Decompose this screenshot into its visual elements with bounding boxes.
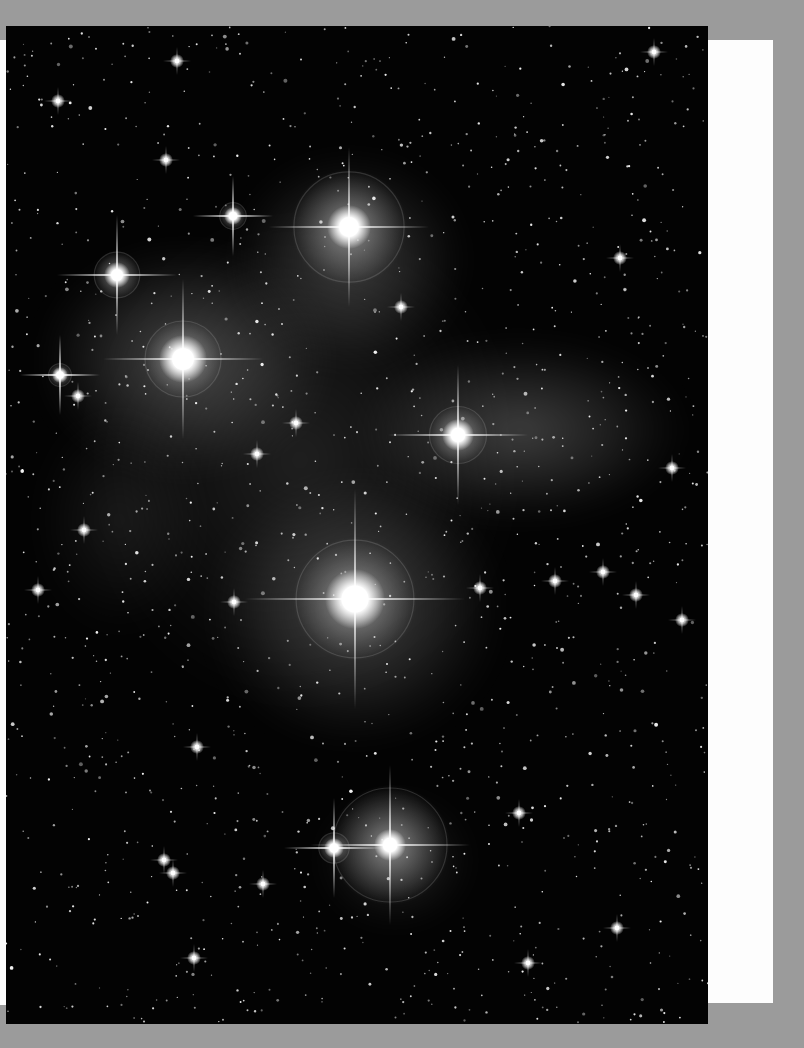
faint-star xyxy=(26,333,28,335)
faint-star xyxy=(16,728,18,730)
faint-star xyxy=(11,722,15,726)
faint-star xyxy=(22,831,23,832)
faint-star xyxy=(496,510,500,514)
faint-star xyxy=(254,992,255,993)
faint-star xyxy=(123,859,124,860)
faint-star xyxy=(205,408,207,410)
faint-star xyxy=(556,647,558,649)
faint-star xyxy=(267,830,269,832)
faint-star xyxy=(227,696,229,698)
faint-star xyxy=(560,217,563,220)
medium-star xyxy=(615,926,620,931)
faint-star xyxy=(364,299,365,300)
faint-star xyxy=(337,97,339,99)
faint-star xyxy=(272,577,276,581)
faint-star xyxy=(481,507,482,508)
faint-star xyxy=(102,475,104,477)
faint-star xyxy=(105,695,109,699)
faint-star xyxy=(609,474,610,475)
faint-star xyxy=(375,69,377,71)
faint-star xyxy=(625,674,627,676)
faint-star xyxy=(151,671,153,673)
faint-star xyxy=(623,288,627,292)
faint-star xyxy=(556,708,558,710)
faint-star xyxy=(145,495,146,496)
faint-star xyxy=(276,999,279,1002)
faint-star xyxy=(130,892,131,893)
faint-star xyxy=(465,819,467,821)
faint-star xyxy=(234,828,237,831)
faint-star xyxy=(37,209,39,211)
faint-star xyxy=(498,865,500,867)
faint-star xyxy=(121,655,123,657)
faint-star xyxy=(432,578,434,580)
faint-star xyxy=(237,792,239,794)
star-field xyxy=(6,26,708,1024)
faint-star xyxy=(386,481,388,483)
faint-star xyxy=(82,704,84,706)
faint-star xyxy=(91,704,93,706)
faint-star xyxy=(425,952,427,954)
faint-star xyxy=(522,827,524,829)
pleiades-photograph xyxy=(6,26,708,1024)
faint-star xyxy=(459,954,461,956)
faint-star xyxy=(377,465,379,467)
faint-star xyxy=(235,383,237,385)
faint-star xyxy=(567,835,569,837)
bright-star xyxy=(342,586,369,613)
faint-star xyxy=(255,541,258,544)
faint-star xyxy=(411,759,413,761)
faint-star xyxy=(47,605,49,607)
faint-star xyxy=(271,333,273,335)
faint-star xyxy=(559,264,561,266)
medium-star xyxy=(526,961,531,966)
faint-star xyxy=(347,51,349,53)
faint-star xyxy=(403,162,406,165)
faint-star xyxy=(571,456,574,459)
faint-star xyxy=(75,983,77,985)
faint-star xyxy=(191,615,195,619)
faint-star xyxy=(444,534,446,536)
faint-star xyxy=(105,659,107,661)
faint-star xyxy=(478,968,480,970)
faint-star xyxy=(489,590,493,594)
faint-star xyxy=(239,706,241,708)
faint-star xyxy=(655,239,658,242)
faint-star xyxy=(594,829,597,832)
faint-star xyxy=(37,528,39,530)
faint-star xyxy=(144,102,146,104)
faint-star xyxy=(402,912,403,913)
faint-star xyxy=(105,402,107,404)
faint-star xyxy=(600,664,601,665)
faint-star xyxy=(171,295,172,296)
faint-star xyxy=(443,575,445,577)
faint-star xyxy=(591,784,593,786)
faint-star xyxy=(37,213,38,214)
faint-star xyxy=(643,184,647,188)
faint-star xyxy=(455,867,456,868)
faint-star xyxy=(166,1000,168,1002)
faint-star xyxy=(242,941,244,943)
faint-star xyxy=(137,915,139,917)
faint-star xyxy=(118,631,120,633)
faint-star xyxy=(24,172,26,174)
faint-star xyxy=(231,391,232,392)
faint-star xyxy=(454,219,456,221)
faint-star xyxy=(105,870,107,872)
faint-star xyxy=(75,231,77,233)
faint-star xyxy=(489,935,491,937)
faint-star xyxy=(543,139,545,141)
faint-star xyxy=(536,1018,538,1020)
faint-star xyxy=(533,978,534,979)
photo-edge-shade xyxy=(676,26,708,1024)
faint-star xyxy=(622,449,623,450)
faint-star xyxy=(603,116,604,117)
faint-star xyxy=(666,799,667,800)
faint-star xyxy=(517,533,519,535)
faint-star xyxy=(302,960,304,962)
faint-star xyxy=(535,167,537,169)
faint-star xyxy=(7,1010,9,1012)
faint-star xyxy=(652,785,654,787)
faint-star xyxy=(113,464,114,465)
faint-star xyxy=(454,1006,456,1008)
